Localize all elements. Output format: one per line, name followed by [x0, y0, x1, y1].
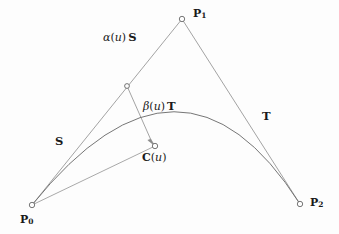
segment-p1-p2 [182, 19, 300, 204]
label-p1-subscript: 1 [201, 11, 206, 20]
label-alpha-u-s: α(u)S [103, 32, 136, 44]
label-c-paren-close: ) [162, 151, 166, 164]
label-vector-t: T [262, 111, 271, 123]
label-p0-subscript: 0 [28, 217, 33, 226]
label-alpha-arg: u [115, 31, 122, 44]
label-beta-vector-t: T [167, 99, 176, 113]
label-p2: P2 [310, 197, 324, 209]
label-vector-s: S [55, 136, 63, 148]
diagram-canvas [0, 0, 339, 234]
label-beta-u-t: β(u)T [143, 101, 176, 113]
point-marker-p0 [29, 202, 34, 207]
label-p1: P1 [193, 8, 207, 20]
label-c-name: C [142, 151, 151, 164]
label-beta-arg: u [154, 100, 161, 113]
label-beta-paren-close: ) [161, 100, 165, 113]
label-p2-subscript: 2 [318, 200, 323, 209]
label-alpha-vector-s: S [128, 30, 136, 44]
segment-p0-cu [32, 146, 155, 205]
bezier-curve-diagram: P1 α(u)S β(u)T S T C(u) P0 P2 [0, 0, 339, 234]
label-alpha-paren-close: ) [122, 31, 126, 44]
label-p0: P0 [20, 214, 34, 226]
point-marker-p2 [297, 201, 302, 206]
point-marker-cu [152, 143, 157, 148]
label-c-of-u: C(u) [142, 152, 166, 163]
point-marker-alpha-u [125, 84, 130, 89]
point-marker-p1 [179, 16, 184, 21]
